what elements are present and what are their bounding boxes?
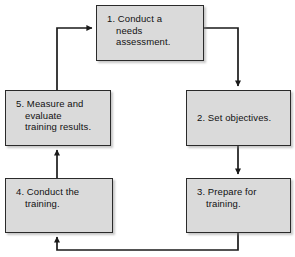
flowchart-diagram: 1. Conduct a needs assessment. 2. Set ob…	[0, 0, 295, 257]
node-conduct-needs-assessment[interactable]: 1. Conduct a needs assessment.	[96, 5, 204, 61]
node-label-2: 2. Set objectives.	[197, 112, 285, 124]
edge-box3-to-box4	[57, 233, 238, 250]
node-set-objectives[interactable]: 2. Set objectives.	[186, 90, 291, 146]
edge-box5-to-box1	[57, 28, 92, 90]
node-label-5: 5. Measure and evaluate training results…	[16, 98, 105, 133]
node-prepare-for-training[interactable]: 3. Prepare for training.	[186, 178, 291, 233]
node-measure-evaluate-results[interactable]: 5. Measure and evaluate training results…	[5, 90, 111, 146]
node-label-4: 4. Conduct the training.	[16, 186, 107, 209]
node-conduct-the-training[interactable]: 4. Conduct the training.	[5, 178, 113, 233]
node-label-3: 3. Prepare for training.	[197, 186, 285, 209]
edge-box1-to-box2	[204, 28, 238, 86]
node-label-1: 1. Conduct a needs assessment.	[107, 13, 198, 48]
